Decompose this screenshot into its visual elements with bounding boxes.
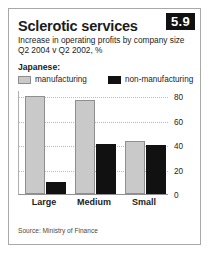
bar-small-manufacturing bbox=[125, 141, 145, 194]
plot-area bbox=[18, 91, 168, 195]
bar-medium-manufacturing bbox=[75, 100, 95, 194]
x-category-label: Medium bbox=[77, 197, 111, 207]
y-tick-label: 20 bbox=[174, 166, 183, 175]
chart-title: Sclerotic services bbox=[18, 18, 138, 34]
legend-label-non-manufacturing: non-manufacturing bbox=[125, 75, 193, 84]
bar-large-non-manufacturing bbox=[46, 182, 66, 194]
legend-swatch-manufacturing-icon bbox=[18, 76, 31, 84]
y-tick-label: 40 bbox=[174, 142, 183, 151]
y-tick-label: 80 bbox=[174, 93, 183, 102]
bar-group bbox=[125, 91, 166, 194]
legend-label-manufacturing: manufacturing bbox=[35, 75, 87, 84]
bar-large-manufacturing bbox=[25, 96, 45, 194]
chart-header: 5.9 Sclerotic services Increase in opera… bbox=[9, 9, 200, 61]
x-axis-category-labels: LargeMediumSmall bbox=[18, 197, 168, 211]
chart-source: Source: Ministry of Finance bbox=[18, 227, 98, 234]
legend-swatch-non-manufacturing-icon bbox=[108, 76, 121, 84]
y-tick-label: 0 bbox=[174, 191, 179, 200]
y-tick-label: 60 bbox=[174, 117, 183, 126]
bar-series-container bbox=[19, 91, 168, 194]
bar-group bbox=[25, 91, 66, 194]
chart-number-badge: 5.9 bbox=[166, 13, 195, 30]
legend-group-label: Japanese: bbox=[18, 62, 60, 72]
x-category-label: Large bbox=[32, 197, 57, 207]
chart-legend: manufacturing non-manufacturing bbox=[18, 75, 196, 86]
chart-subtitle-line1: Increase in operating profits by company… bbox=[18, 35, 185, 45]
chart-subtitle-line2: Q2 2004 v Q2 2002, % bbox=[18, 45, 102, 55]
chart-plot: 020406080 LargeMediumSmall bbox=[18, 91, 194, 203]
bar-medium-non-manufacturing bbox=[96, 144, 116, 194]
bar-group bbox=[75, 91, 116, 194]
x-category-label: Small bbox=[132, 197, 156, 207]
legend-item-non-manufacturing: non-manufacturing bbox=[108, 75, 193, 84]
bar-small-non-manufacturing bbox=[146, 145, 166, 194]
chart-card: 5.9 Sclerotic services Increase in opera… bbox=[8, 8, 201, 245]
legend-item-manufacturing: manufacturing bbox=[18, 75, 87, 84]
